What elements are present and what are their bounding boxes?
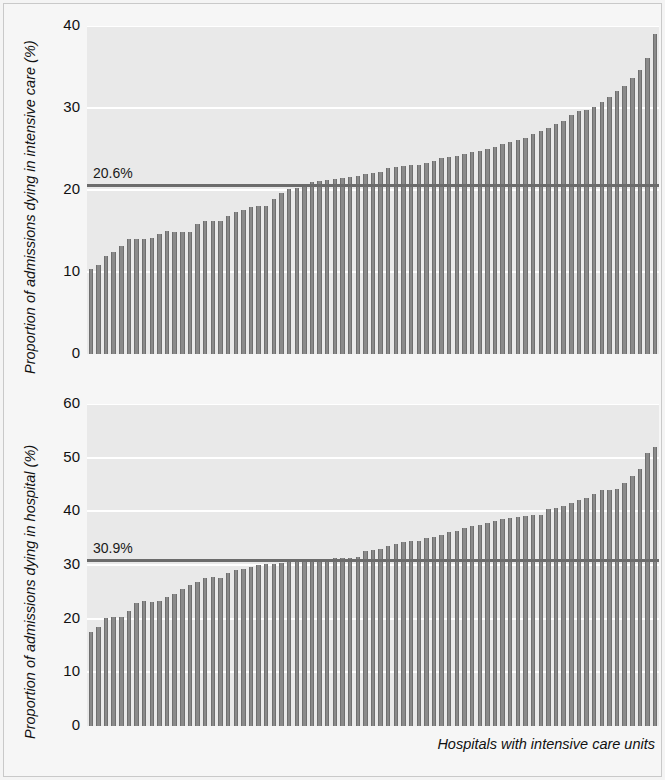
- y-tick-label: 40: [40, 501, 80, 518]
- bar: [249, 207, 253, 354]
- y-tick-label: 20: [40, 180, 80, 197]
- bar: [310, 560, 314, 726]
- bar: [478, 151, 482, 354]
- bar: [256, 565, 260, 726]
- bar: [256, 206, 260, 354]
- y-axis-label-icu: Proportion of admissions dying in intens…: [22, 40, 38, 374]
- bar: [211, 221, 215, 354]
- bar: [279, 563, 283, 726]
- y-tick-label: 30: [40, 555, 80, 572]
- bar: [226, 573, 230, 726]
- bar: [607, 97, 611, 354]
- bar: [378, 549, 382, 726]
- bar: [531, 515, 535, 726]
- bar-series-hospital: [87, 404, 659, 726]
- bar: [302, 560, 306, 726]
- bar: [127, 239, 131, 354]
- bar: [172, 232, 176, 354]
- bar: [394, 544, 398, 726]
- bar: [653, 34, 657, 354]
- bar: [340, 558, 344, 727]
- bar: [188, 585, 192, 726]
- bar: [264, 206, 268, 354]
- bar: [127, 611, 131, 726]
- bar: [203, 578, 207, 726]
- bar: [630, 78, 634, 354]
- bar: [516, 140, 520, 354]
- bar: [218, 578, 222, 726]
- bar: [89, 269, 93, 354]
- bar: [523, 516, 527, 726]
- y-tick-label: 10: [40, 662, 80, 679]
- bar: [378, 172, 382, 354]
- bar: [569, 503, 573, 726]
- bar: [310, 182, 314, 354]
- bar: [195, 224, 199, 354]
- bar: [333, 179, 337, 354]
- bar: [356, 176, 360, 354]
- bar: [470, 526, 474, 726]
- bar: [409, 541, 413, 726]
- bar: [325, 559, 329, 726]
- bar: [554, 508, 558, 726]
- bar: [478, 525, 482, 726]
- bar: [302, 185, 306, 354]
- bar: [119, 246, 123, 354]
- bar: [180, 589, 184, 726]
- bar: [409, 165, 413, 354]
- plot-area-icu: [87, 26, 659, 354]
- bar: [622, 86, 626, 354]
- bar: [272, 199, 276, 354]
- bar: [295, 560, 299, 726]
- bar: [119, 617, 123, 726]
- bar: [142, 239, 146, 354]
- bar: [432, 537, 436, 726]
- bar: [607, 490, 611, 726]
- bar: [417, 165, 421, 354]
- bar: [333, 558, 337, 726]
- bar: [325, 180, 329, 354]
- bar: [493, 521, 497, 726]
- bar: [165, 231, 169, 354]
- y-tick-label: 60: [40, 394, 80, 411]
- bar: [417, 541, 421, 726]
- bar: [615, 489, 619, 726]
- bar: [317, 559, 321, 726]
- y-tick-label: 50: [40, 448, 80, 465]
- bar: [249, 567, 253, 726]
- figure-page: Proportion of admissions dying in intens…: [0, 0, 665, 780]
- bar: [584, 498, 588, 726]
- reference-line-hospital: [87, 559, 659, 562]
- reference-line-icu: [87, 184, 659, 187]
- reference-line-label-hospital: 30.9%: [93, 540, 133, 556]
- bar: [401, 166, 405, 354]
- bar: [287, 189, 291, 354]
- bar: [211, 577, 215, 726]
- bar: [188, 232, 192, 354]
- bar: [279, 193, 283, 354]
- bar-series-icu: [87, 26, 659, 354]
- bar: [638, 70, 642, 354]
- bar: [561, 121, 565, 354]
- bar: [516, 517, 520, 726]
- bar: [600, 490, 604, 726]
- bar: [180, 232, 184, 354]
- bar: [394, 167, 398, 354]
- bar: [600, 102, 604, 354]
- bar: [195, 582, 199, 726]
- bar: [439, 158, 443, 354]
- bar: [638, 469, 642, 726]
- bar: [622, 483, 626, 726]
- bar: [295, 188, 299, 354]
- bar: [371, 173, 375, 354]
- bar: [172, 594, 176, 726]
- bar: [645, 58, 649, 354]
- bar: [485, 523, 489, 726]
- bar: [493, 147, 497, 354]
- bar: [203, 221, 207, 354]
- bar: [96, 627, 100, 726]
- bar: [150, 602, 154, 727]
- bar: [371, 550, 375, 726]
- bar: [264, 564, 268, 726]
- bar: [142, 601, 146, 726]
